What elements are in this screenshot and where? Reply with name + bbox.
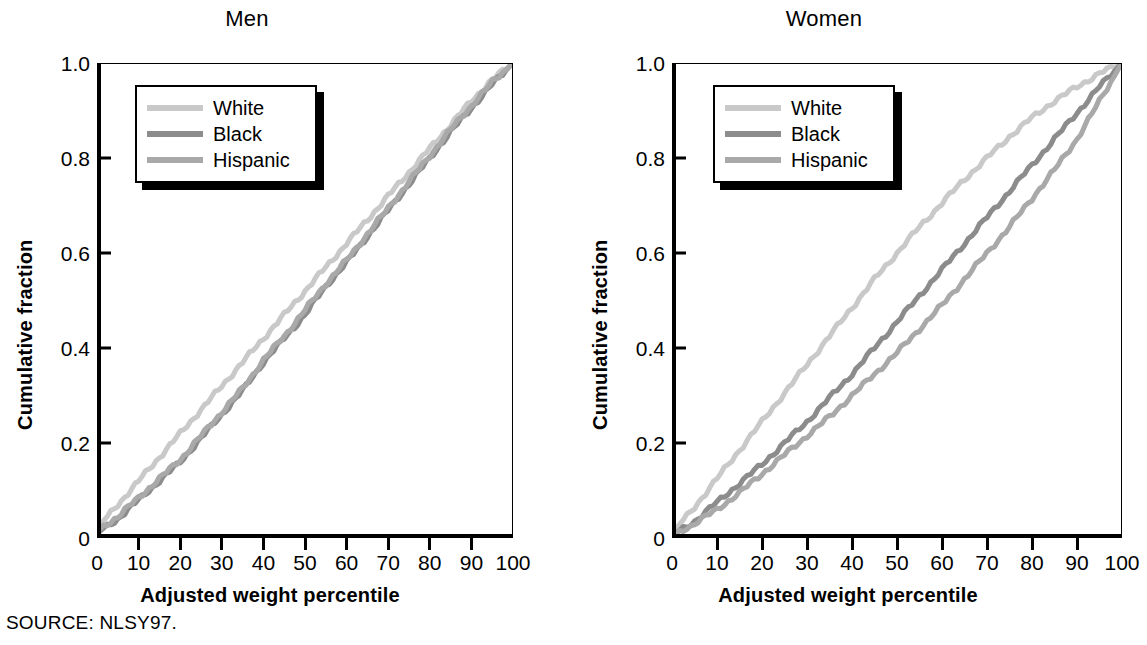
x-tick-mark (896, 538, 899, 550)
x-tick-label: 100 (1104, 552, 1139, 573)
panel-title-men: Men (0, 6, 534, 32)
x-tick-labels-men: 0102030405060708090100 (97, 552, 513, 580)
x-tick-mark (137, 538, 140, 550)
legend-swatch-black (147, 131, 203, 137)
y-tick-label: 0 (653, 528, 665, 549)
x-tick-mark (806, 538, 809, 550)
y-tick-label: 0.2 (636, 433, 665, 454)
y-tick-label: 0.4 (61, 338, 90, 359)
x-axis-title-women: Adjusted weight percentile (561, 584, 1135, 607)
x-tick-label: 100 (495, 552, 530, 573)
x-axis-title-men: Adjusted weight percentile (0, 584, 557, 607)
x-tick-mark (716, 538, 719, 550)
x-tick-label: 80 (418, 552, 441, 573)
y-tick-label: 1.0 (636, 53, 665, 74)
y-tick-labels-women: 00.20.40.60.81.0 (605, 63, 665, 538)
legend-label-white: White (213, 98, 264, 118)
x-tick-label: 30 (795, 552, 818, 573)
y-tick-label: 0.6 (636, 243, 665, 264)
legend-swatch-white (147, 105, 203, 111)
x-tick-mark (304, 538, 307, 550)
legend-item-black-men: Black (147, 121, 262, 147)
y-tick-marks-men (0, 63, 20, 538)
x-tick-label: 20 (750, 552, 773, 573)
legend-men: White Black Hispanic (135, 85, 317, 183)
legend-swatch-hispanic (725, 157, 781, 163)
x-tick-label: 20 (169, 552, 192, 573)
panel-women: Women Cumulative fraction 00.20.40.60.81… (573, 0, 1147, 610)
legend-item-black-women: Black (725, 121, 840, 147)
x-tick-labels-women: 0102030405060708090100 (672, 552, 1122, 580)
legend-item-white-men: White (147, 95, 264, 121)
y-tick-marks-women (573, 63, 593, 538)
x-tick-mark (262, 538, 265, 550)
y-tick-label: 0.8 (61, 148, 90, 169)
x-tick-mark (1076, 538, 1079, 550)
x-tick-label: 60 (335, 552, 358, 573)
y-tick-label: 0.8 (636, 148, 665, 169)
x-tick-mark (387, 538, 390, 550)
panel-title-women: Women (537, 6, 1111, 32)
x-tick-mark (851, 538, 854, 550)
x-tick-mark (986, 538, 989, 550)
legend-label-white: White (791, 98, 842, 118)
y-tick-label: 0.2 (61, 433, 90, 454)
x-tick-label: 40 (840, 552, 863, 573)
figure-container: Men Cumulative fraction 00.20.40.60.81.0… (0, 0, 1147, 645)
x-tick-mark (470, 538, 473, 550)
legend-item-hispanic-women: Hispanic (725, 147, 868, 173)
legend-swatch-black (725, 131, 781, 137)
y-tick-label: 0.6 (61, 243, 90, 264)
x-tick-mark (941, 538, 944, 550)
x-tick-label: 60 (930, 552, 953, 573)
legend-swatch-white (725, 105, 781, 111)
legend-label-hispanic: Hispanic (213, 150, 290, 170)
x-tick-label: 50 (293, 552, 316, 573)
x-tick-mark (761, 538, 764, 550)
legend-women: White Black Hispanic (713, 85, 895, 183)
panel-men: Men Cumulative fraction 00.20.40.60.81.0… (0, 0, 574, 610)
y-tick-labels-men: 00.20.40.60.81.0 (30, 63, 90, 538)
legend-label-black: Black (213, 124, 262, 144)
x-tick-label: 30 (210, 552, 233, 573)
x-tick-marks-men (97, 538, 513, 550)
x-tick-label: 10 (705, 552, 728, 573)
y-tick-label: 0.4 (636, 338, 665, 359)
x-tick-label: 70 (975, 552, 998, 573)
x-tick-label: 40 (252, 552, 275, 573)
legend-swatch-hispanic (147, 157, 203, 163)
x-tick-label: 0 (666, 552, 678, 573)
legend-item-white-women: White (725, 95, 842, 121)
x-tick-label: 0 (91, 552, 103, 573)
y-tick-label: 0 (78, 528, 90, 549)
x-tick-marks-women (672, 538, 1122, 550)
x-tick-mark (428, 538, 431, 550)
x-tick-mark (179, 538, 182, 550)
legend-item-hispanic-men: Hispanic (147, 147, 290, 173)
x-tick-label: 80 (1020, 552, 1043, 573)
y-tick-label: 1.0 (61, 53, 90, 74)
legend-label-black: Black (791, 124, 840, 144)
legend-label-hispanic: Hispanic (791, 150, 868, 170)
x-tick-mark (220, 538, 223, 550)
x-tick-mark (345, 538, 348, 550)
x-tick-label: 90 (1065, 552, 1088, 573)
x-tick-label: 50 (885, 552, 908, 573)
x-tick-label: 70 (377, 552, 400, 573)
source-note: SOURCE: NLSY97. (6, 612, 177, 634)
x-tick-label: 10 (127, 552, 150, 573)
x-tick-mark (1031, 538, 1034, 550)
x-tick-label: 90 (460, 552, 483, 573)
